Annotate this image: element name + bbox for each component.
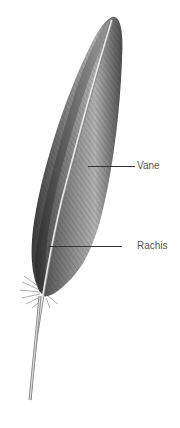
- rachis-leader-line: [49, 246, 122, 247]
- feather-illustration: [0, 0, 180, 428]
- vane-leader-line: [88, 166, 135, 167]
- vane-label: Vane: [137, 160, 160, 171]
- rachis-label: Rachis: [137, 240, 168, 251]
